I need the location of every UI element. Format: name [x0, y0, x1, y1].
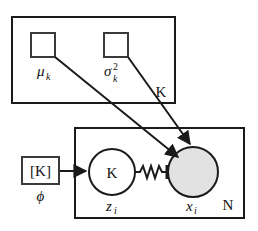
node-z-i-label: z [105, 198, 112, 214]
sigma2-k-square [104, 33, 128, 57]
phi-label: ϕ [37, 188, 45, 204]
sigma2-k-subscript: k [113, 73, 118, 84]
graphical-model-svg: K μ k σ 2 k N [K] ϕ K z i x i [0, 0, 258, 231]
mu-k-subscript: k [46, 71, 51, 82]
edge-mu-to-x [55, 57, 178, 157]
plate-n-label: N [223, 197, 234, 213]
mu-k-label: μ [36, 63, 45, 79]
phi-box-inner-label: [K] [30, 163, 51, 179]
node-z-i-subscript: i [114, 205, 117, 216]
sigma2-k-superscript: 2 [113, 61, 118, 72]
edge-z-to-x-wavy [135, 166, 167, 178]
plate-diagram-canvas: K μ k σ 2 k N [K] ϕ K z i x i [0, 0, 258, 231]
mu-k-square [31, 33, 55, 57]
edge-sigma-to-x [128, 57, 190, 144]
sigma2-k-label: σ [104, 63, 112, 79]
node-x-i-label: x [185, 198, 193, 214]
node-x-i-subscript: i [194, 205, 197, 216]
node-z-i-inner-label: K [107, 165, 118, 181]
